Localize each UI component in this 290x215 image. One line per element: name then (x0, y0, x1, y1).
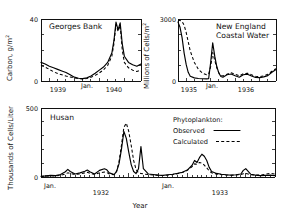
husan-xlabel: Year (132, 202, 148, 210)
new-england-title-line1: New England (216, 22, 266, 31)
new-england-ytick-top: 3000 (160, 16, 176, 24)
legend-heading: Phytoplankton: (173, 116, 223, 124)
husan-observed-series (41, 131, 275, 176)
georges-bank-xtick-2: 1940 (106, 86, 122, 94)
husan-xtick-1: 1932 (93, 189, 109, 197)
husan-ytick-bottom: 0 (34, 174, 38, 182)
phytoplankton-figure: Carbon, g/m2 40 0 (0, 0, 290, 215)
georges-bank-calculated-series (41, 24, 141, 79)
georges-bank-title: Georges Bank (49, 22, 103, 31)
svg-text:Carbon, g/m2: Carbon, g/m2 (5, 35, 14, 81)
panel-husan: Thousands of Cells/Liter 500 0 Husan (0, 100, 290, 215)
husan-title: Husan (50, 113, 74, 122)
georges-bank-ylabel-sup: 2 (5, 35, 10, 38)
panel-new-england-coastal-water: Millions of Cells/m2 3000 0 (140, 8, 290, 100)
husan-axes (41, 108, 275, 177)
husan-calculated-series (41, 123, 275, 176)
georges-bank-xtick-marks (49, 78, 132, 82)
new-england-ylabel-sup: 2 (142, 23, 147, 26)
georges-bank-ylabel: Carbon, g/m (6, 38, 14, 81)
husan-xtick-3: 1933 (212, 189, 228, 197)
georges-bank-ytick-marks (41, 19, 45, 81)
new-england-xtick-1: Jan. (205, 82, 218, 90)
new-england-ylabel: Millions of Cells/m (143, 26, 151, 89)
panel-georges-bank: Carbon, g/m2 40 0 (0, 8, 150, 100)
husan-ytick-top: 500 (26, 105, 38, 113)
legend-calculated-label: Calculated (173, 138, 208, 146)
georges-bank-xtick-0: 1939 (50, 86, 66, 94)
georges-bank-xtick-1: Jan. (80, 82, 93, 90)
husan-xtick-0: Jan. (43, 182, 56, 190)
svg-text:Millions of Cells/m2: Millions of Cells/m2 (142, 23, 151, 89)
georges-bank-ytick-top: 40 (30, 16, 38, 24)
new-england-ytick-bottom: 0 (172, 78, 176, 86)
legend-observed-label: Observed (173, 127, 205, 135)
husan-ylabel: Thousands of Cells/Liter (7, 106, 15, 191)
legend: Phytoplankton: Observed Calculated (173, 116, 240, 146)
husan-xtick-2: Jan. (161, 182, 174, 190)
new-england-xtick-2: 1936 (238, 86, 254, 94)
new-england-xtick-0: 1935 (181, 86, 197, 94)
husan-ytick-marks (41, 108, 45, 177)
new-england-title-line2: Coastal Water (216, 31, 270, 40)
georges-bank-ytick-bottom: 0 (34, 78, 38, 86)
